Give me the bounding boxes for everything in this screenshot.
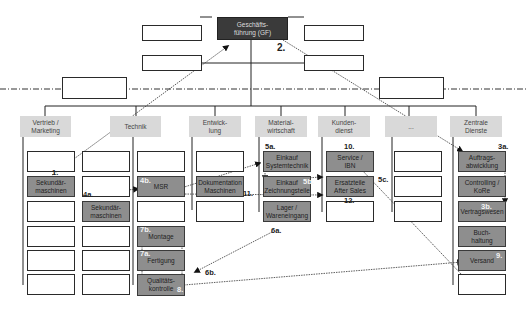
unit-auftragsabwicklung: Auftrags- abwicklung xyxy=(458,151,506,172)
unit-entwicklung-3 xyxy=(196,201,244,222)
staff-box-right-1 xyxy=(304,25,364,41)
gf-box: Geschäfts- führung (GF) xyxy=(217,17,288,40)
unit-entwicklung-dokumentation: Dokumentation Maschinen xyxy=(196,176,244,197)
unit-technik-1 xyxy=(137,151,185,172)
unit-col2-sekundaermaschinen: Sekundär- maschinen xyxy=(82,201,130,222)
step-8-label: 8. xyxy=(177,285,183,294)
unit-ersatzteile-after-sales: Ersatzteile After Sales xyxy=(326,176,374,197)
gf-label: Geschäfts- führung (GF) xyxy=(234,21,271,37)
step-6a-label: 6a. xyxy=(271,226,281,235)
step-9-label: 9. xyxy=(496,251,502,260)
staff-box-right-3 xyxy=(379,77,444,99)
unit-buchhaltung: Buch- haltung xyxy=(458,226,506,247)
unit-technik-3 xyxy=(137,201,185,222)
dept-kundendienst: Kunden- dienst xyxy=(318,116,370,137)
step-4a-label: 4a. xyxy=(83,190,93,199)
step-3a-label: 3a. xyxy=(498,142,508,151)
unit-col2-6 xyxy=(82,274,130,295)
dept-zentrale-dienste: Zentrale Dienste xyxy=(450,116,502,137)
unit-entwicklung-1 xyxy=(196,151,244,172)
step-12-label: 12. xyxy=(344,196,354,205)
step-5c-label: 5c. xyxy=(378,175,388,184)
step-5b-label: 5b. xyxy=(303,177,314,186)
dept-vertrieb: Vertrieb / Marketing xyxy=(20,116,71,137)
unit-vertrieb-5 xyxy=(27,250,75,271)
unit-other-2 xyxy=(394,176,442,197)
unit-service-ibn: Service / IBN xyxy=(326,151,374,172)
step-3b-label: 3b. xyxy=(481,202,492,211)
step-6b-label: 6b. xyxy=(205,268,216,277)
unit-zentrale-6 xyxy=(458,274,506,295)
staff-box-left-1 xyxy=(142,25,202,41)
unit-controlling-kore: Controlling / KoRe xyxy=(458,176,506,197)
step-10-label: 10. xyxy=(344,142,354,151)
dept-other: ... xyxy=(385,116,437,137)
dept-entwicklung: Entwick- lung xyxy=(189,116,241,137)
unit-col2-1 xyxy=(82,151,130,172)
unit-vertrieb-6 xyxy=(27,274,75,295)
unit-other-1 xyxy=(394,151,442,172)
staff-box-left-3 xyxy=(62,77,127,99)
unit-einkauf-systemtechnik: Einkauf Systemtechnik xyxy=(263,151,311,172)
step-7b-label: 7b. xyxy=(140,225,151,234)
step-5a-label: 5a. xyxy=(265,142,275,151)
staff-box-right-2 xyxy=(304,55,364,71)
unit-vertrieb-sekundaermaschinen: Sekundär- maschinen xyxy=(27,176,75,197)
step-4b-label: 4b. xyxy=(140,176,151,185)
unit-col2-5 xyxy=(82,250,130,271)
dept-technik: Technik xyxy=(110,116,161,137)
unit-lager-wareneingang: Lager / Wareneingang xyxy=(263,201,311,222)
step-1-label: 1. xyxy=(52,168,58,177)
unit-vertrieb-4 xyxy=(27,226,75,247)
org-process-diagram: Geschäfts- führung (GF) 2. Vertrieb / Ma… xyxy=(0,0,526,313)
step-7a-label: 7a. xyxy=(140,249,150,258)
staff-box-left-2 xyxy=(142,55,202,71)
step-11-label: 11. xyxy=(243,189,253,198)
unit-other-3 xyxy=(394,201,442,222)
unit-vertrieb-3 xyxy=(27,201,75,222)
unit-col2-4 xyxy=(82,226,130,247)
unit-vertrieb-1 xyxy=(27,151,75,172)
step-2-label: 2. xyxy=(277,42,285,53)
dept-materialwirtschaft: Material- wirtschaft xyxy=(255,116,307,137)
